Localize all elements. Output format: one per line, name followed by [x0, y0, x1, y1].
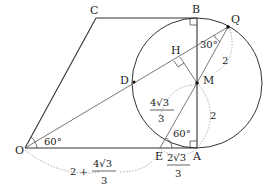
label-d: D — [120, 74, 129, 87]
right-angle-h — [174, 61, 184, 67]
label-m: M — [203, 74, 214, 87]
dotted-arc-oa — [25, 150, 100, 173]
angle-arc-o — [35, 142, 37, 148]
label-h: H — [171, 44, 181, 57]
label-q: Q — [231, 13, 240, 26]
angle-label-o: 60° — [44, 136, 62, 147]
label-b: B — [192, 3, 200, 16]
dotted-arc-oa2 — [120, 150, 160, 172]
length-me-den: 3 — [158, 113, 164, 124]
point-m — [195, 81, 199, 85]
angle-label-e: 60° — [173, 128, 191, 139]
geometry-diagram: C B Q H M D O E A 60° 30° 60° 2 2 4√3 3 … — [0, 0, 267, 192]
angle-label-q: 30° — [200, 39, 218, 50]
length-ea-num: 2√3 — [167, 152, 186, 163]
length-me-num: 4√3 — [150, 97, 169, 108]
length-ma: 2 — [210, 110, 216, 121]
right-angle-b — [190, 18, 197, 25]
point-q — [226, 25, 230, 29]
label-a: A — [192, 150, 202, 163]
segment-mh — [180, 57, 197, 83]
length-oa-num: 4√3 — [93, 158, 112, 169]
length-oa-prefix: 2 + — [70, 166, 88, 177]
point-d — [133, 81, 136, 84]
right-angle-a — [190, 141, 197, 148]
label-c: C — [90, 4, 98, 17]
dotted-arc-ma — [199, 85, 211, 146]
length-oa-den: 3 — [101, 175, 107, 186]
angle-arc-e — [166, 138, 172, 148]
angle-arc-o2 — [31, 137, 35, 142]
label-o: O — [15, 144, 24, 157]
segment-co — [25, 18, 96, 148]
length-ea-den: 3 — [175, 168, 181, 179]
length-mq: 2 — [222, 55, 228, 66]
label-e: E — [155, 150, 163, 163]
